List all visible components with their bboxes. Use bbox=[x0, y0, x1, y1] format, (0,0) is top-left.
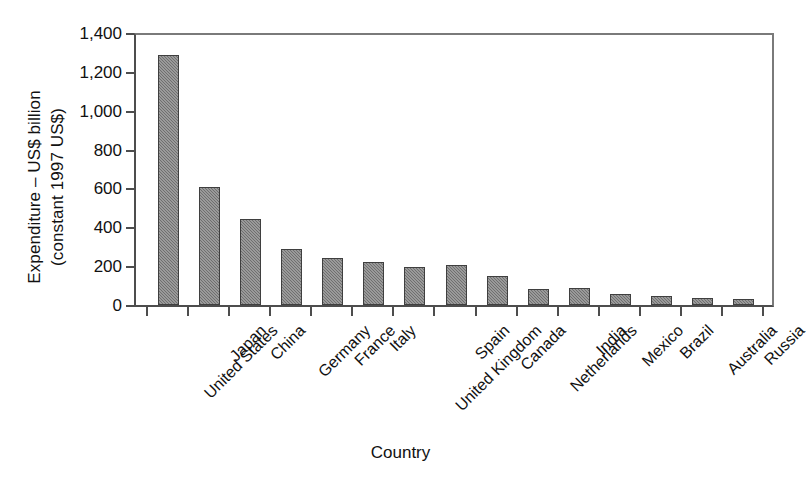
x-axis-category-label: Brazil bbox=[677, 322, 717, 362]
x-axis-title: Country bbox=[0, 443, 801, 463]
